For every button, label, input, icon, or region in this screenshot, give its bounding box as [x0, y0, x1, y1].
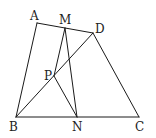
- geometry-diagram: A M D P B N C: [0, 0, 156, 138]
- label-C: C: [135, 120, 144, 134]
- segment-PN: [54, 76, 77, 117]
- label-M: M: [59, 13, 71, 27]
- segment-AB: [16, 23, 37, 117]
- segment-DC: [93, 33, 139, 117]
- segment-MN: [65, 28, 77, 117]
- label-D: D: [95, 22, 105, 36]
- label-A: A: [29, 9, 39, 23]
- label-B: B: [9, 120, 18, 134]
- segment-MP: [54, 28, 65, 76]
- label-P: P: [44, 69, 52, 83]
- label-N: N: [72, 120, 83, 134]
